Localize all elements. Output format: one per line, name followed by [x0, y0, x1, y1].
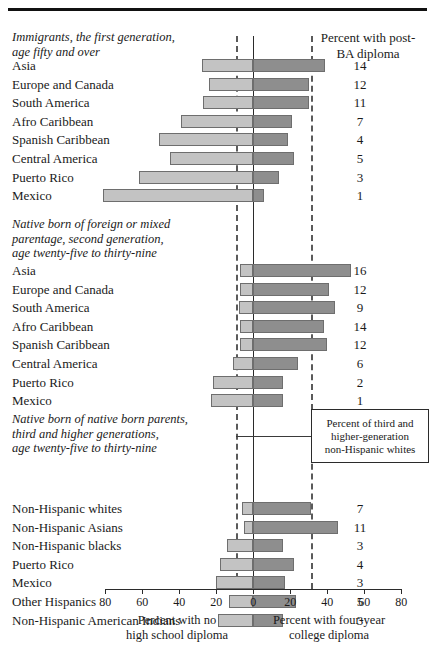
- chart-row: Mexico1: [0, 187, 435, 205]
- chart-row: Central America5: [0, 150, 435, 168]
- category-label: Puerto Rico: [12, 170, 74, 186]
- category-label: Asia: [12, 263, 36, 279]
- bar-four-year-college-diploma: [253, 338, 327, 351]
- bar-four-year-college-diploma: [253, 502, 310, 515]
- bar-four-year-college-diploma: [253, 576, 284, 589]
- bar-four-year-college-diploma: [253, 133, 288, 146]
- chart-row: South America11: [0, 94, 435, 112]
- top-divider-rule: [8, 8, 427, 11]
- chart-row: South America9: [0, 299, 435, 317]
- chart-canvas: Percent with post- BA diploma Percent of…: [0, 0, 435, 652]
- section-title: Immigrants, the first generation, age fi…: [12, 30, 175, 59]
- chart-row: Puerto Rico4: [0, 556, 435, 574]
- bar-no-high-school-diploma: [139, 171, 254, 184]
- bar-no-high-school-diploma: [159, 133, 253, 146]
- bar-no-high-school-diploma: [181, 115, 253, 128]
- bar-four-year-college-diploma: [253, 115, 292, 128]
- bar-no-high-school-diploma: [202, 59, 254, 72]
- bar-four-year-college-diploma: [253, 320, 323, 333]
- x-axis-tick-label: 80: [386, 595, 416, 609]
- bar-four-year-college-diploma: [253, 283, 329, 296]
- bar-no-high-school-diploma: [203, 96, 253, 109]
- x-axis-label-right: Percent with four-year college diploma: [254, 613, 404, 643]
- chart-row: Afro Caribbean14: [0, 318, 435, 336]
- bar-four-year-college-diploma: [253, 189, 264, 202]
- category-label: Afro Caribbean: [12, 114, 93, 130]
- x-axis-tick: [401, 589, 402, 594]
- post-ba-value: 16: [340, 263, 380, 279]
- category-label: Europe and Canada: [12, 77, 114, 93]
- category-label: Spanish Caribbean: [12, 337, 110, 353]
- category-label: Spanish Caribbean: [12, 132, 110, 148]
- post-ba-value: 1: [340, 188, 380, 204]
- category-label: Non-Hispanic blacks: [12, 538, 121, 554]
- bar-four-year-college-diploma: [253, 521, 338, 534]
- post-ba-value: 14: [340, 319, 380, 335]
- x-axis-tick-label: 0: [238, 595, 268, 609]
- category-label: Afro Caribbean: [12, 319, 93, 335]
- x-axis-tick: [327, 589, 328, 594]
- category-label: Mexico: [12, 188, 52, 204]
- x-axis-tick-label: 80: [90, 595, 120, 609]
- bar-four-year-college-diploma: [253, 558, 294, 571]
- bar-no-high-school-diploma: [216, 576, 253, 589]
- bar-no-high-school-diploma: [244, 521, 253, 534]
- bar-no-high-school-diploma: [211, 394, 254, 407]
- section-title: Native born of foreign or mixed parentag…: [12, 217, 170, 261]
- category-label: Other Hispanics: [12, 594, 96, 610]
- category-label: South America: [12, 95, 90, 111]
- chart-row: Puerto Rico2: [0, 374, 435, 392]
- category-label: Mexico: [12, 393, 52, 409]
- x-axis-tick: [253, 589, 254, 594]
- post-ba-value: 12: [340, 77, 380, 93]
- chart-row: Spanish Caribbean12: [0, 336, 435, 354]
- post-ba-value: 4: [340, 557, 380, 573]
- bar-no-high-school-diploma: [239, 301, 254, 314]
- post-ba-value: 6: [340, 356, 380, 372]
- category-label: Non-Hispanic whites: [12, 501, 122, 517]
- chart-row: Mexico1: [0, 392, 435, 410]
- post-ba-value: 5: [340, 151, 380, 167]
- chart-row: Asia16: [0, 262, 435, 280]
- post-ba-value: 11: [340, 520, 380, 536]
- bar-no-high-school-diploma: [170, 152, 253, 165]
- post-ba-value: 2: [340, 375, 380, 391]
- post-ba-value: 11: [340, 95, 380, 111]
- x-axis-tick-label: 40: [312, 595, 342, 609]
- bar-four-year-college-diploma: [253, 152, 294, 165]
- post-ba-value: 7: [340, 114, 380, 130]
- category-label: Non-Hispanic Asians: [12, 520, 123, 536]
- chart-row: Spanish Caribbean4: [0, 131, 435, 149]
- x-axis-tick: [105, 589, 106, 594]
- section-title: Native born of native born parents, thir…: [12, 412, 188, 456]
- chart-row: Europe and Canada12: [0, 76, 435, 94]
- post-ba-value: 9: [340, 300, 380, 316]
- chart-row: Non-Hispanic blacks3: [0, 537, 435, 555]
- bar-four-year-college-diploma: [253, 171, 279, 184]
- x-axis-tick-label: 60: [127, 595, 157, 609]
- x-axis-tick: [290, 589, 291, 594]
- bar-no-high-school-diploma: [227, 539, 253, 552]
- category-label: Central America: [12, 356, 98, 372]
- callout-leader-line: [236, 436, 312, 437]
- x-axis-tick: [216, 589, 217, 594]
- category-label: Asia: [12, 58, 36, 74]
- x-axis-tick-label: 20: [201, 595, 231, 609]
- category-label: South America: [12, 300, 90, 316]
- chart-row: Central America6: [0, 355, 435, 373]
- bar-no-high-school-diploma: [103, 189, 253, 202]
- chart-row: Afro Caribbean7: [0, 113, 435, 131]
- chart-row: Asia14: [0, 57, 435, 75]
- post-ba-value: 4: [340, 132, 380, 148]
- bar-no-high-school-diploma: [213, 376, 254, 389]
- bar-four-year-college-diploma: [253, 78, 309, 91]
- chart-row: Non-Hispanic Asians11: [0, 519, 435, 537]
- x-axis-tick: [142, 589, 143, 594]
- post-ba-value: 3: [340, 170, 380, 186]
- x-axis-tick: [364, 589, 365, 594]
- bar-four-year-college-diploma: [253, 59, 325, 72]
- bar-four-year-college-diploma: [253, 394, 283, 407]
- bar-four-year-college-diploma: [253, 264, 351, 277]
- chart-row: Non-Hispanic whites7: [0, 500, 435, 518]
- category-label: Puerto Rico: [12, 375, 74, 391]
